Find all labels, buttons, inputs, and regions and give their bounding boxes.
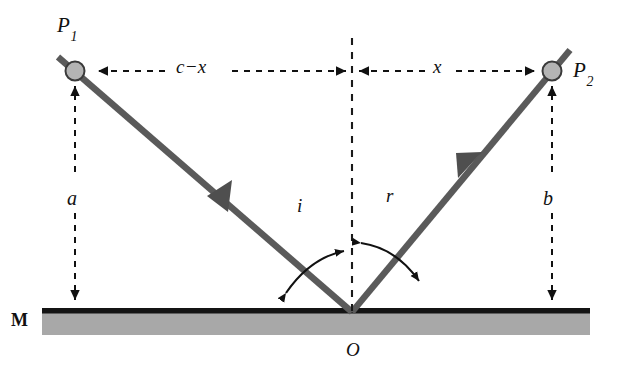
mirror-body (42, 313, 590, 335)
label-point-p2-base: P (573, 58, 586, 82)
label-angle-incidence: i (297, 196, 302, 215)
mirror-surface (42, 308, 590, 314)
diagram-canvas (0, 0, 617, 375)
label-angle-reflection: r (386, 186, 393, 205)
label-mirror: M (11, 311, 28, 329)
label-origin-o: O (346, 340, 360, 359)
reflection-diagram: P1 P2 c−x x a b i r M O (0, 0, 617, 375)
label-segment-c-minus-x: c−x (176, 57, 206, 76)
angle-arc-incidence (286, 251, 344, 293)
incident-ray (58, 57, 352, 312)
reflected-ray (352, 50, 570, 312)
label-point-p1: P1 (57, 15, 77, 40)
incident-ray-arrowhead (207, 180, 232, 212)
label-point-p1-subscript: 1 (70, 29, 77, 44)
label-segment-x: x (433, 57, 441, 76)
label-point-p2: P2 (573, 60, 593, 85)
point-marker-p2 (543, 62, 562, 81)
label-height-a: a (67, 188, 77, 208)
point-marker-p1 (66, 62, 85, 81)
label-point-p1-base: P (57, 13, 70, 37)
label-point-p2-subscript: 2 (586, 74, 593, 89)
label-height-b: b (543, 188, 553, 208)
